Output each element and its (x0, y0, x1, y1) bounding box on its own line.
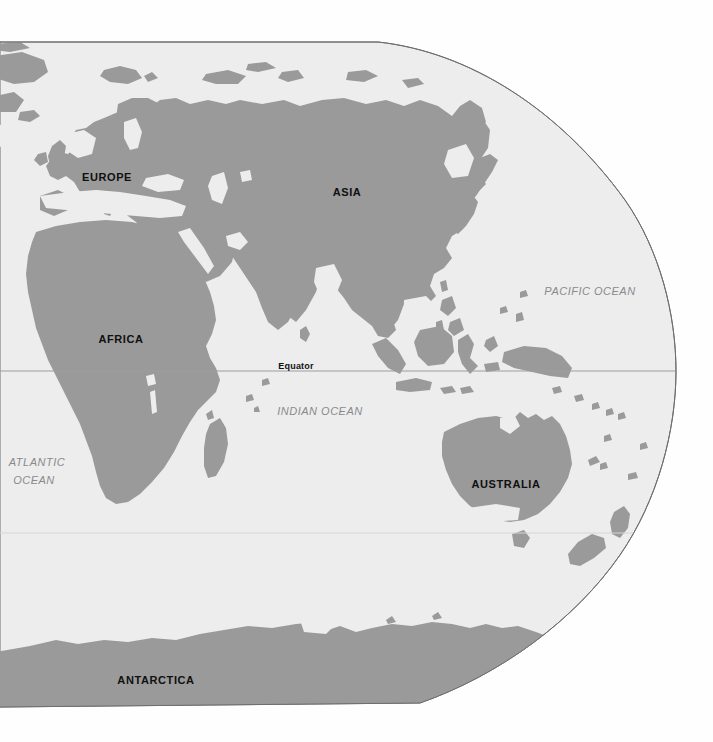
label-europe: EUROPE (82, 171, 132, 183)
label-africa: AFRICA (98, 333, 143, 345)
label-antarctica: ANTARCTICA (117, 674, 194, 686)
label-pacific-ocean: PACIFIC OCEAN (544, 285, 635, 297)
label-equator: Equator (278, 361, 314, 371)
label-australia: AUSTRALIA (472, 478, 541, 490)
label-atlantic-ocean-line1: ATLANTIC (8, 456, 65, 468)
label-indian-ocean: INDIAN OCEAN (277, 405, 362, 417)
world-map-container: PACIFIC OCEAN INDIAN OCEAN ATLANTIC OCEA… (0, 0, 713, 742)
sea-aral (240, 170, 252, 182)
label-atlantic-ocean-line2: OCEAN (13, 474, 55, 486)
world-map-svg: PACIFIC OCEAN INDIAN OCEAN ATLANTIC OCEA… (0, 0, 713, 742)
landmass-antarctic-peninsula (560, 634, 586, 656)
sea-weddell (526, 644, 562, 666)
label-asia: ASIA (333, 186, 362, 198)
